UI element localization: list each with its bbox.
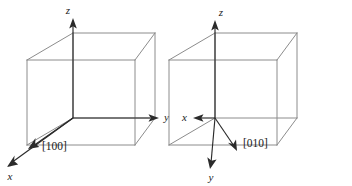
- axis-z-right: z: [211, 6, 224, 118]
- axis-label-z-right: z: [218, 6, 224, 18]
- cube-edge-recede-top-left: [27, 33, 73, 60]
- cube-edge-recede-top-right: [277, 33, 297, 60]
- direction-label-010: [010]: [243, 137, 268, 149]
- cube-edge-recede-bottom-left: [169, 118, 215, 145]
- cube-edge-recede-top-right: [135, 33, 155, 60]
- axis-label-y-left: y: [163, 111, 169, 123]
- crystal-direction-figure: z y x [100]: [0, 0, 352, 186]
- diagram-canvas: z y x [100]: [0, 0, 352, 186]
- cube-edge-recede-bottom-right: [277, 118, 297, 145]
- axis-y-right-line: [211, 118, 215, 163]
- axis-label-x-left: x: [7, 170, 13, 182]
- axis-label-y-right: y: [208, 171, 214, 183]
- direction-vector-010: [010]: [215, 118, 268, 151]
- panel-left: z y x [100]: [7, 4, 169, 182]
- cube-edge-recede-top-left: [169, 33, 215, 60]
- panel-right: z x y [010]: [169, 6, 297, 183]
- axis-y-right-arrowhead: [207, 157, 216, 169]
- cube-right: [169, 33, 297, 145]
- axis-y-right: y: [207, 118, 216, 183]
- axis-label-z-left: z: [65, 4, 71, 16]
- axis-z-left: z: [65, 4, 77, 118]
- cube-left: [27, 33, 155, 145]
- direction-label-100: [100]: [42, 140, 67, 152]
- axis-x-left-arrowhead: [7, 156, 18, 168]
- cube-edge-recede-bottom-right: [135, 118, 155, 145]
- axis-label-x-right: x: [181, 111, 187, 123]
- direction-vector-010-line: [215, 118, 234, 146]
